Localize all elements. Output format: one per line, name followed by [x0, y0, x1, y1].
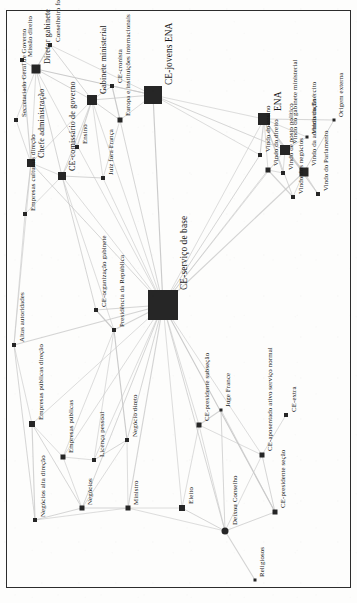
- graph-node-label-juge-france: Juge France: [225, 373, 232, 407]
- graph-node-label-vindo-do-direito: Vindo do direito: [273, 119, 280, 166]
- graph-edge: [62, 176, 96, 310]
- graph-node-label-ce-cronista: CE-cronista: [117, 49, 124, 83]
- graph-node-ministro[interactable]: [126, 506, 131, 511]
- graph-node-label-vindo-do-parlamento: Vindo do Parlamento: [323, 131, 330, 191]
- graph-edge: [31, 163, 163, 305]
- graph-node-label-origem-externa: Origem externa: [338, 73, 345, 117]
- graph-node-label-ce-comissario-governo: CE-comissário de governo: [69, 81, 77, 171]
- graph-node-label-ce-presidente-seccao: CE-presidente seção: [280, 450, 287, 508]
- graph-node-label-vindo-da-administracao: Vindo da administração: [311, 98, 318, 166]
- graph-node-label-chefe-administracao: Chefe administração: [38, 89, 46, 158]
- graph-edge: [182, 508, 225, 531]
- graph-node-negocios[interactable]: [80, 506, 85, 511]
- graph-node-label-ce-jovens-ena: CE-jovens ENA: [165, 23, 174, 86]
- graph-node-europa-instituicoes[interactable]: [118, 118, 123, 123]
- graph-node-ce-organizacao-gabinete[interactable]: [94, 308, 98, 312]
- graph-node-label-religiosos: Religiosos: [259, 547, 266, 577]
- graph-node-label-vindo-do-ensino: Vindo do ensino: [265, 105, 272, 152]
- graph-edges-layer: [0, 0, 357, 603]
- graph-node-label-negocio-direto: Negócio direto: [132, 394, 139, 437]
- graph-node-label-empresas-culturais-direcao: Empresas culturais direção: [30, 134, 37, 211]
- graph-node-label-negocios: Negócios: [87, 478, 94, 505]
- graph-node-label-deixou-conselho: Deixou Conselho: [232, 475, 239, 525]
- graph-edge: [14, 345, 32, 424]
- graph-node-label-diretor-gabinete: Diretor gabinete: [44, 9, 52, 64]
- graph-edge: [32, 424, 63, 457]
- graph-edge: [62, 176, 103, 178]
- graph-node-label-empresas-publicas-direcao: Empresas públicas direção: [38, 344, 45, 420]
- graph-node-presidencia-da-republica[interactable]: [112, 328, 116, 332]
- graph-node-juiz-fora-franca[interactable]: [101, 176, 105, 180]
- graph-node-label-empresas-publicas: Empresas públicas: [68, 400, 75, 453]
- graph-node-gabinete-ministerial[interactable]: [87, 95, 97, 105]
- graph-edge: [262, 455, 275, 512]
- graph-node-vindo-dos-negocios[interactable]: [291, 195, 295, 199]
- graph-node-label-europa-instituicoes: Europa e instituições internacionais: [125, 14, 132, 116]
- graph-node-religiosos[interactable]: [254, 579, 257, 582]
- graph-node-label-negocios-alta-direcao: Negócios alta direção: [40, 455, 47, 517]
- graph-node-label-ensino: Ensino: [82, 124, 89, 144]
- graph-edge: [163, 155, 260, 305]
- graph-node-label-ce-aposentado-ativo: CE-aposentado ativo serviço normal: [267, 347, 274, 451]
- graph-node-vindo-posto-politico[interactable]: [281, 171, 285, 175]
- graph-node-ce-aposentado-ativo[interactable]: [260, 453, 265, 458]
- graph-node-altas-autoridades[interactable]: [12, 343, 16, 347]
- graph-node-ce-comissario-governo[interactable]: [58, 172, 66, 180]
- graph-node-ce-presidente-subseccao[interactable]: [197, 423, 202, 428]
- graph-edge: [36, 69, 153, 95]
- graph-node-label-licenca-pessoal: Licença pessoal: [99, 412, 106, 457]
- graph-node-licenca-pessoal[interactable]: [92, 458, 96, 462]
- graph-node-empresas-publicas[interactable]: [61, 455, 66, 460]
- graph-node-origem-externa[interactable]: [333, 119, 336, 122]
- graph-node-label-missao-direito: Missão direito: [27, 16, 34, 57]
- graph-node-negocios-alta-direcao[interactable]: [33, 518, 37, 522]
- graph-edge: [153, 95, 260, 155]
- graph-node-label-gabinete-ministerial: Gabinete ministerial: [100, 25, 108, 94]
- graph-node-label-ena: ENA: [274, 91, 283, 111]
- graph-node-label-ministro: Ministro: [133, 480, 140, 505]
- graph-node-label-presidencia-da-republica: Presidência da República: [119, 255, 126, 327]
- graph-node-ce-extra[interactable]: [284, 413, 288, 417]
- graph-edge: [103, 178, 163, 305]
- graph-node-label-vindo-posto-politico: Vindo de posto político: [288, 103, 295, 170]
- network-graph-figure: Missão direitoSecretariado Geral de Gove…: [0, 0, 357, 603]
- graph-node-empresas-culturais-direcao[interactable]: [23, 212, 27, 216]
- graph-edge: [153, 95, 163, 305]
- graph-edge: [128, 508, 225, 531]
- graph-node-deixou-conselho[interactable]: [222, 528, 229, 535]
- graph-node-label-ce-presidente-subseccao: CE-presidente subseção: [204, 353, 211, 421]
- graph-node-ce-presidente-seccao[interactable]: [273, 510, 278, 515]
- graph-node-ce-servico-de-base[interactable]: [148, 290, 178, 320]
- graph-node-secretariado-geral-governo[interactable]: [14, 118, 18, 122]
- graph-node-label-vindo-dos-negocios: Vindo dos negócios: [298, 138, 305, 194]
- graph-node-juge-france[interactable]: [220, 409, 223, 412]
- graph-edge: [63, 457, 82, 508]
- graph-node-label-secretariado-geral-governo: Secretariado Geral de Governo: [21, 29, 28, 117]
- graph-edge: [163, 305, 262, 455]
- graph-node-label-ce-organizacao-gabinete: CE-organização gabinete: [101, 235, 108, 307]
- graph-edge: [96, 310, 114, 330]
- graph-edge: [92, 100, 103, 178]
- graph-edge: [225, 531, 255, 580]
- graph-node-label-conselheiro-fora-ministerios: Conselheiro fora ministérios: [55, 0, 62, 42]
- graph-edge: [63, 457, 94, 460]
- graph-node-label-ce-extra: CE-extra: [291, 386, 298, 412]
- graph-node-vindo-do-parlamento[interactable]: [316, 192, 320, 196]
- graph-node-negocio-direto[interactable]: [125, 438, 129, 442]
- graph-edge: [221, 410, 225, 531]
- graph-node-label-ce-servico-de-base: CE-serviço de base: [180, 216, 189, 290]
- graph-node-empresas-publicas-direcao[interactable]: [29, 421, 35, 427]
- graph-node-label-altas-autoridades: Altas autoridades: [19, 292, 26, 342]
- graph-node-diretor-gabinete[interactable]: [32, 65, 41, 74]
- graph-edge: [199, 425, 225, 531]
- graph-node-vindo-do-ensino[interactable]: [258, 153, 262, 157]
- graph-node-ce-cronista[interactable]: [110, 84, 114, 88]
- graph-node-vindo-do-exercito[interactable]: [306, 136, 309, 139]
- graph-node-vindo-do-direito[interactable]: [266, 168, 271, 173]
- graph-node-label-eleito: Eleito: [188, 487, 195, 504]
- graph-node-eleito[interactable]: [179, 505, 185, 511]
- graph-edge: [153, 95, 264, 119]
- graph-edge: [127, 440, 128, 508]
- graph-node-label-juiz-fora-franca: Juiz fora França: [108, 129, 115, 175]
- graph-node-ce-jovens-ena[interactable]: [144, 86, 162, 104]
